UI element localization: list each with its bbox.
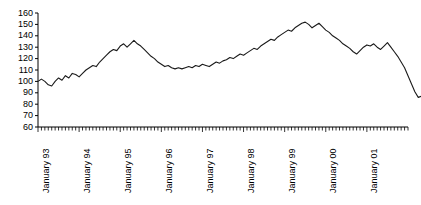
x-axis-tick-labels: January 93January 94January 95January 96… (0, 0, 421, 205)
x-axis-tick-label: January 01 (370, 148, 379, 193)
x-axis-tick-label: January 97 (206, 148, 215, 193)
line-chart: 16015014013012011010090807060 January 93… (0, 0, 421, 205)
x-axis-tick-label: January 94 (83, 148, 92, 193)
x-axis-tick-label: January 96 (165, 148, 174, 193)
x-axis-tick-label: January 00 (329, 148, 338, 193)
x-axis-tick-label: January 95 (124, 148, 133, 193)
x-axis-tick-label: January 98 (247, 148, 256, 193)
x-axis-tick-label: January 99 (288, 148, 297, 193)
x-axis-tick-label: January 93 (42, 148, 51, 193)
